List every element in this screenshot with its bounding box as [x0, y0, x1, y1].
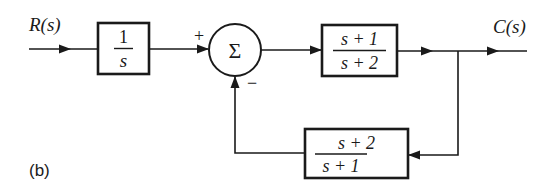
- feedback-wire-right: [408, 51, 458, 155]
- summing-junction: Σ: [209, 24, 261, 76]
- figure-caption: (b): [29, 161, 50, 180]
- forward-input-arrow-icon: [310, 46, 322, 55]
- minus-input-arrow-icon: [231, 76, 240, 88]
- sigma-symbol: Σ: [229, 38, 242, 63]
- output-arrow-icon: [487, 47, 499, 56]
- plus-sign: +: [194, 26, 204, 46]
- integrator-block: 1 s: [98, 23, 149, 74]
- forward-block: s + 1 s + 2: [322, 25, 397, 76]
- forward-denominator: s + 2: [341, 53, 378, 73]
- input-label: R(s): [28, 14, 61, 36]
- forward-output-arrow-icon: [421, 47, 433, 56]
- integrator-denominator: s: [120, 50, 127, 71]
- block-diagram: R(s) 1 s + Σ s + 1 s + 2 C(s) s + 2 s + …: [0, 0, 549, 194]
- feedback-input-arrow-icon: [408, 151, 420, 160]
- feedback-wire-left: [235, 77, 305, 153]
- minus-sign: −: [247, 73, 257, 93]
- integrator-numerator: 1: [119, 27, 128, 47]
- output-label: C(s): [493, 16, 526, 38]
- feedback-denominator: s + 1: [322, 156, 359, 176]
- input-arrow-icon: [59, 45, 71, 54]
- feedback-numerator: s + 2: [338, 133, 375, 153]
- forward-numerator: s + 1: [341, 29, 378, 49]
- feedback-block: s + 2 s + 1: [305, 129, 408, 178]
